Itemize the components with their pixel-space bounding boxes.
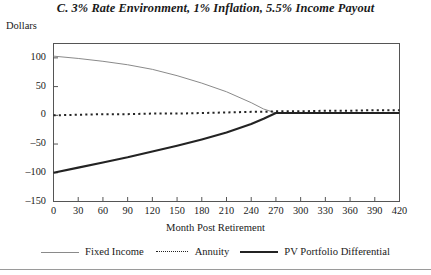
series-line [54,56,400,113]
solid-thin-line-swatch [41,247,79,257]
solid-thick-line-swatch [240,247,278,257]
y-tick-label: 50 [2,80,46,91]
plot-area [0,0,431,275]
data-series-group [54,56,400,173]
y-tick-label: –50 [2,137,46,148]
y-tick-label: 0 [2,108,46,119]
legend-label: Annuity [195,246,230,257]
x-axis-title: Month Post Retirement [0,222,431,233]
chart-legend: Fixed IncomeAnnuityPV Portfolio Differen… [0,246,431,257]
legend-entry: Fixed Income [41,246,144,257]
figure-panel-c: C. 3% Rate Environment, 1% Inflation, 5.… [0,0,431,275]
y-tick-label: 100 [2,51,46,62]
y-tick-label: –100 [2,166,46,177]
y-tick-label: –150 [2,195,46,206]
x-tick-label: 420 [384,205,416,216]
footer-divider [0,269,431,270]
legend-label: Fixed Income [85,246,144,257]
legend-label: PV Portfolio Differential [284,246,390,257]
x-axis-ticks [54,197,400,202]
series-line [54,113,400,173]
plot-frame [54,44,400,202]
legend-entry: Annuity [155,246,230,257]
dotted-line-swatch [155,247,189,257]
legend-entry: PV Portfolio Differential [240,246,390,257]
